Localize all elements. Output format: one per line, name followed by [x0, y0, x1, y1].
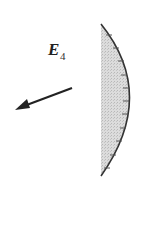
field-arrow	[15, 88, 72, 110]
field-label: E 4	[47, 40, 66, 62]
diagram-canvas: E 4	[0, 0, 156, 245]
label-subscript: 4	[60, 50, 66, 62]
mirror	[101, 24, 130, 176]
label-symbol: E	[47, 40, 59, 59]
